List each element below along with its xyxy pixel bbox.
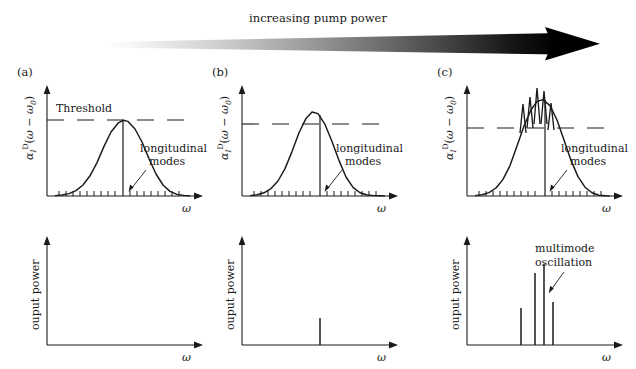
panel-c-gain-x-axis-arrow [614,193,623,200]
panel-c-output-spikes [521,264,553,345]
panel-b-gain-x-axis-arrow [389,193,398,200]
panel-c: (c) [437,65,628,364]
panel-c-label: (c) [437,65,452,79]
panel-b-gain-chart: longitudinal modes αID(ω − ω0) ω [216,85,403,215]
figure-canvas: increasing pump power (a) Threshold [0,0,636,369]
panel-a-longitudinal-label: longitudinal [140,142,207,155]
panel-a-gain-x-axis-arrow [194,193,203,200]
panel-a: (a) Threshold [17,65,207,364]
panel-a-output-y-label: ouput power [29,259,42,330]
panel-c-gain-x-label: ω [602,202,611,215]
panel-a-modes-arrow-head [129,184,134,192]
panel-a-label: (a) [17,65,33,79]
gradient-arrow-shaft [106,33,560,55]
panel-b-longitudinal-label: longitudinal [336,142,403,155]
panel-b-output-y-label: ouput power [224,259,237,330]
header-group: increasing pump power [106,11,600,61]
panel-b-gain-y-axis-arrow [239,85,246,94]
panel-b-gain-y-label: αID(ω − ω0) [216,96,233,160]
panel-c-mode-ticks [479,191,601,196]
panel-b-output-y-axis-arrow [239,236,246,245]
panel-b-output-x-label: ω [377,351,386,364]
figure-root: increasing pump power (a) Threshold [0,0,636,369]
panel-c-output-y-label: ouput power [449,259,462,330]
panel-c-modes-arrow-shaft [552,170,567,189]
panel-c-gain-y-label: αID(ω − ω0) [441,96,458,160]
panel-a-mode-ticks [59,191,179,196]
gradient-arrow-head [545,27,600,61]
panel-c-oscillation-label: oscillation [535,256,592,269]
panel-c-mode-spikes [520,88,554,133]
panel-a-gain-y-label: αID(ω − ω0) [21,96,38,160]
panel-c-modes-arrow-head [550,184,555,192]
panel-b-output-chart: ouput power ω [224,236,398,364]
panel-c-output-x-label: ω [602,351,611,364]
panel-a-gain-y-axis-arrow [44,85,51,94]
mode-spike [541,91,547,124]
panel-c-longitudinal-label: longitudinal [561,142,628,155]
panel-a-threshold-label: Threshold [56,102,112,115]
panel-a-output-x-label: ω [182,351,191,364]
panel-c-output-x-axis-arrow [614,342,623,349]
header-label: increasing pump power [249,11,387,25]
panel-a-output-chart: ouput power ω [29,236,203,364]
panel-c-output-y-axis-arrow [464,236,471,245]
panel-b-modes-arrow-shaft [327,170,342,189]
panel-c-multimode-arrow-shaft [551,272,564,290]
panel-b-modes-label: modes [345,155,382,168]
panel-c-multimode-label: multimode [535,242,595,255]
panel-a-output-x-axis-arrow [194,342,203,349]
panel-b-output-x-axis-arrow [389,342,398,349]
panel-c-modes-label: modes [570,155,607,168]
panel-c-gain-y-axis-arrow [464,85,471,94]
panel-a-output-y-axis-arrow [44,236,51,245]
panel-b-gain-x-label: ω [377,202,386,215]
panel-b-modes-arrow-head [325,184,330,192]
panel-a-modes-label: modes [149,155,186,168]
mode-spike [534,88,540,124]
panel-b: (b) [212,65,403,364]
panel-c-output-chart: multimode oscillation ouput power ω [449,236,623,364]
panel-c-gain-chart: longitudinal modes αID(ω − ω0) ω [441,85,628,215]
panel-b-label: (b) [212,65,228,79]
panel-a-gain-chart: Threshold [21,85,207,215]
panel-a-modes-arrow-shaft [131,170,146,189]
panel-a-gain-x-label: ω [182,202,191,215]
mode-spike [548,103,554,130]
